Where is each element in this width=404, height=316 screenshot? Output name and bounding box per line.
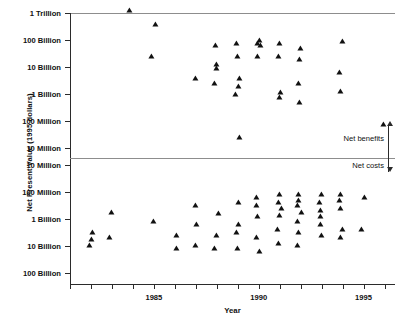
y-tick-label: 10 Million [26, 161, 61, 170]
data-point [234, 245, 240, 250]
data-point [299, 209, 305, 214]
data-point [107, 234, 113, 239]
data-point [192, 76, 198, 81]
data-point [213, 43, 219, 48]
data-point [253, 203, 259, 208]
data-point [152, 22, 158, 27]
y-tick-label: 10 Billion [27, 63, 61, 72]
y-tick-label: 10 Million [26, 144, 61, 153]
data-point [236, 84, 242, 89]
y-tick-label: 100 Billion [23, 269, 61, 278]
y-tick-mark [65, 273, 71, 274]
data-point [276, 199, 282, 204]
data-point [295, 197, 301, 202]
x-tick-mark [133, 284, 134, 289]
y-tick-label: 1 Billion [31, 215, 61, 224]
x-tick-mark [385, 284, 386, 289]
data-point [211, 80, 217, 85]
chart-root: Net Present Value (1995 dollars) 1 Trill… [0, 0, 404, 316]
data-point [277, 40, 283, 45]
x-tick-label: 1990 [250, 293, 267, 302]
data-point [275, 53, 281, 58]
data-point [295, 218, 301, 223]
x-tick-mark [154, 284, 155, 289]
y-tick-mark [65, 94, 71, 95]
data-point [295, 203, 301, 208]
data-point [213, 232, 219, 237]
data-point [257, 43, 263, 48]
x-tick-mark [196, 284, 197, 289]
y-tick-mark [65, 165, 71, 166]
data-point [295, 191, 301, 196]
data-point [253, 195, 259, 200]
data-point [234, 53, 240, 58]
x-tick-mark [343, 284, 344, 289]
data-point [337, 191, 343, 196]
data-point [319, 191, 325, 196]
data-point [337, 205, 343, 210]
x-tick-mark [112, 284, 113, 289]
data-point [298, 45, 304, 50]
data-point [275, 240, 281, 245]
data-point [233, 230, 239, 235]
data-point [337, 234, 343, 239]
y-tick-mark [65, 219, 71, 220]
x-tick-mark [217, 284, 218, 289]
y-tick-mark [65, 40, 71, 41]
axis-bottom-line [70, 284, 395, 285]
data-point [276, 94, 282, 99]
data-point [361, 195, 367, 200]
data-point [336, 70, 342, 75]
data-point [295, 230, 301, 235]
data-point [232, 91, 238, 96]
direction-arrow-shaft [388, 126, 389, 172]
data-point [337, 88, 343, 93]
data-point [108, 209, 114, 214]
arrow-up-icon [387, 121, 393, 126]
y-tick-mark [65, 13, 71, 14]
axis-left-line [70, 13, 71, 285]
data-point [214, 66, 220, 71]
x-axis-title: Year [70, 306, 395, 315]
data-point [295, 80, 301, 85]
data-point [254, 213, 260, 218]
data-point [174, 232, 180, 237]
y-tick-label: 1 Trillion [30, 9, 61, 18]
y-tick-label: 100 Billion [23, 36, 61, 45]
data-point [296, 99, 302, 104]
data-point [339, 226, 345, 231]
data-point [90, 230, 96, 235]
data-point [233, 40, 239, 45]
data-point [253, 234, 259, 239]
y-tick-mark [65, 148, 71, 149]
x-tick-mark [175, 284, 176, 289]
y-tick-mark [65, 192, 71, 193]
data-point [215, 211, 221, 216]
y-tick-label: 100 Million [22, 117, 61, 126]
y-tick-label: 1 Billion [31, 90, 61, 99]
x-tick-label: 1995 [355, 293, 372, 302]
data-point [317, 199, 323, 204]
data-point [235, 199, 241, 204]
data-point [358, 226, 364, 231]
data-point [173, 245, 179, 250]
data-point [278, 205, 284, 210]
data-point [317, 207, 323, 212]
y-tick-mark [65, 121, 71, 122]
x-tick-mark [364, 284, 365, 289]
data-point [194, 222, 200, 227]
data-point [151, 218, 157, 223]
zero-divider-line [70, 158, 395, 159]
x-tick-mark [91, 284, 92, 289]
arrow-down-icon [387, 167, 393, 172]
annotation-net-benefits: Net benefits [343, 134, 384, 143]
data-point [212, 245, 218, 250]
data-point [337, 197, 343, 202]
data-point [255, 53, 261, 58]
y-tick-label: 100 Million [22, 188, 61, 197]
data-point [297, 57, 303, 62]
data-point [193, 243, 199, 248]
plot-area: 1 Trillion100 Billion10 Billion1 Billion… [70, 13, 395, 285]
data-point [237, 134, 243, 139]
data-point [192, 203, 198, 208]
